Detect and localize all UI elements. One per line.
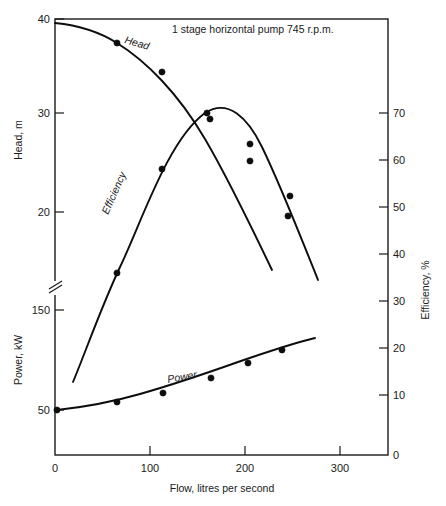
efficiency-marker-2 bbox=[159, 166, 165, 172]
efficiency-series-label: Efficiency bbox=[99, 169, 129, 216]
power-marker-2 bbox=[160, 390, 166, 396]
head-marker-1 bbox=[114, 40, 120, 46]
x-axis-ticks bbox=[150, 446, 340, 455]
power-marker-4 bbox=[245, 360, 251, 366]
chart-canvas: 40 30 20 150 50 70 60 50 40 30 20 10 0 0… bbox=[0, 0, 446, 506]
power-marker-1 bbox=[114, 399, 120, 405]
power-tick-label-50: 50 bbox=[38, 404, 50, 416]
power-tick-label-150: 150 bbox=[32, 304, 50, 316]
left-axis-head-ticks bbox=[55, 19, 64, 212]
head-marker-3 bbox=[207, 116, 213, 122]
efficiency-marker-3 bbox=[204, 110, 210, 116]
pump-performance-chart: 40 30 20 150 50 70 60 50 40 30 20 10 0 0… bbox=[0, 0, 446, 506]
efficiency-tick-label-10: 10 bbox=[393, 389, 405, 401]
x-tick-label-0: 0 bbox=[52, 462, 58, 474]
right-axis-efficiency-ticks bbox=[379, 113, 388, 395]
efficiency-tick-label-20: 20 bbox=[393, 342, 405, 354]
head-marker-4 bbox=[247, 158, 253, 164]
power-marker-3 bbox=[208, 375, 214, 381]
efficiency-tick-label-0: 0 bbox=[393, 449, 399, 461]
efficiency-tick-label-30: 30 bbox=[393, 295, 405, 307]
head-tick-label-20: 20 bbox=[38, 206, 50, 218]
x-axis-title: Flow, litres per second bbox=[170, 482, 275, 494]
y-axis-title-power: Power, kW bbox=[12, 335, 24, 385]
efficiency-curve bbox=[73, 108, 318, 382]
efficiency-tick-label-40: 40 bbox=[393, 248, 405, 260]
head-tick-label-40: 40 bbox=[38, 13, 50, 25]
x-tick-label-300: 300 bbox=[331, 462, 349, 474]
x-tick-label-100: 100 bbox=[141, 462, 159, 474]
chart-title: 1 stage horizontal pump 745 r.p.m. bbox=[172, 23, 334, 35]
power-marker-0 bbox=[54, 407, 60, 413]
axis-break-icon bbox=[49, 281, 62, 295]
efficiency-tick-label-50: 50 bbox=[393, 201, 405, 213]
efficiency-marker-5 bbox=[287, 193, 293, 199]
power-series-label: Power bbox=[166, 368, 198, 385]
x-tick-label-200: 200 bbox=[236, 462, 254, 474]
head-marker-2 bbox=[159, 69, 165, 75]
efficiency-marker-1 bbox=[114, 270, 120, 276]
power-marker-5 bbox=[279, 347, 285, 353]
efficiency-marker-4 bbox=[247, 141, 253, 147]
left-axis-power-ticks bbox=[55, 310, 64, 410]
head-curve bbox=[55, 23, 272, 270]
plot-frame bbox=[55, 19, 388, 455]
y-axis-title-head: Head, m bbox=[12, 120, 24, 160]
efficiency-tick-label-70: 70 bbox=[393, 107, 405, 119]
y-axis-title-efficiency: Efficiency, % bbox=[419, 260, 431, 319]
head-tick-label-30: 30 bbox=[38, 107, 50, 119]
head-marker-5 bbox=[285, 213, 291, 219]
efficiency-tick-label-60: 60 bbox=[393, 154, 405, 166]
head-markers bbox=[114, 40, 291, 219]
